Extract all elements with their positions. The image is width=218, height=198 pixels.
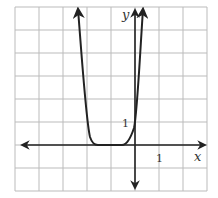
x-axis-label: x: [194, 149, 202, 164]
function-graph: y x 1 1: [0, 0, 218, 198]
grid: [15, 7, 207, 191]
x-tick-label-1: 1: [156, 152, 163, 165]
y-tick-label-1: 1: [122, 117, 129, 130]
y-axis-label: y: [121, 7, 130, 22]
